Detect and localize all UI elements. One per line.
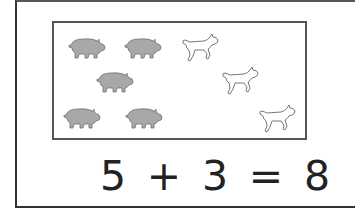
animal-picture-box — [52, 21, 307, 140]
equals-sign: = — [249, 156, 283, 197]
addition-equation: 5 + 3 = 8 — [100, 154, 330, 198]
lamb-icon — [220, 65, 260, 101]
addend-a: 5 — [100, 156, 126, 197]
pig-icon — [95, 70, 135, 98]
pig-icon — [124, 106, 164, 134]
lamb-icon — [257, 103, 297, 139]
plus-sign: + — [147, 156, 181, 197]
pig-icon — [123, 36, 163, 64]
pig-icon — [62, 106, 102, 134]
pig-icon — [67, 36, 107, 64]
lamb-icon — [180, 32, 220, 68]
sum-result: 8 — [304, 156, 330, 197]
addend-b: 3 — [202, 156, 228, 197]
